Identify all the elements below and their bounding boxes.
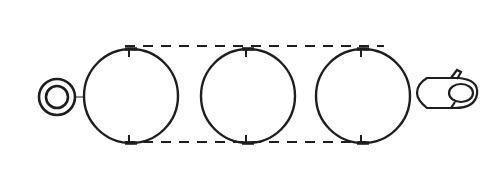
wheel-3 xyxy=(316,49,410,143)
idler-inner-ring xyxy=(46,86,68,108)
drive-cam-mechanism xyxy=(417,70,477,108)
idler-outer-ring xyxy=(39,79,75,115)
belt-drive-diagram xyxy=(0,0,498,170)
wheel-circle xyxy=(84,49,178,143)
drive-housing xyxy=(417,78,477,108)
wheels-group xyxy=(84,49,410,143)
idler-pulley xyxy=(39,79,75,115)
wheel-1 xyxy=(84,49,178,143)
cam-ellipse xyxy=(449,84,473,102)
wheel-circle xyxy=(316,49,410,143)
wheel-circle xyxy=(201,49,295,143)
diagram-canvas xyxy=(0,0,498,170)
wheel-2 xyxy=(201,49,295,143)
